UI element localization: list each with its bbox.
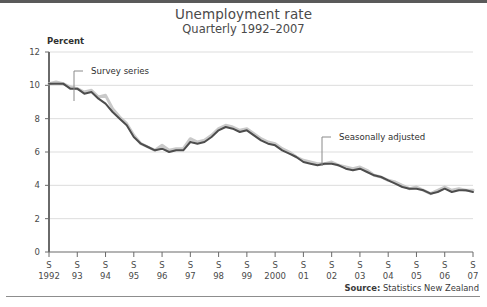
y-tick-label: 0: [35, 247, 40, 257]
x-tick-year: 95: [128, 271, 139, 281]
y-tick-label: 2: [35, 214, 40, 224]
chart-figure: Unemployment rate Quarterly 1992–2007 Pe…: [0, 0, 487, 307]
x-tick-year: 93: [72, 271, 83, 281]
x-tick-year: 03: [355, 271, 366, 281]
x-tick-quarter: S: [301, 260, 306, 270]
x-tick-quarter: S: [385, 260, 390, 270]
y-tick-label: 8: [35, 114, 40, 124]
x-tick-quarter: S: [414, 260, 419, 270]
x-tick-year: 98: [213, 271, 224, 281]
source-value: Statistics New Zealand: [383, 283, 479, 293]
x-tick-year: 04: [383, 271, 394, 281]
x-axis-ticks: S1992S93S94S95S96S97S98S99S2000S01S02S03…: [38, 252, 478, 281]
y-tick-label: 12: [29, 47, 40, 57]
x-tick-quarter: S: [159, 260, 164, 270]
x-tick-quarter: S: [188, 260, 193, 270]
x-tick-year: 2000: [264, 271, 286, 281]
annotation-leader-line: [74, 71, 83, 101]
x-tick-quarter: S: [216, 260, 221, 270]
y-axis-ticks: 024681012: [29, 47, 49, 257]
y-tick-label: 4: [35, 180, 40, 190]
x-tick-quarter: S: [442, 260, 447, 270]
annotation-label: Survey series: [91, 66, 150, 76]
y-tick-label: 10: [29, 80, 40, 90]
x-tick-quarter: S: [272, 260, 277, 270]
bottom-divider: [6, 296, 480, 297]
x-tick-year: 99: [241, 271, 252, 281]
x-tick-year: 07: [468, 271, 479, 281]
x-tick-year: 97: [185, 271, 196, 281]
y-tick-label: 6: [35, 147, 40, 157]
source-note: Source: Statistics New Zealand: [344, 283, 479, 293]
x-tick-year: 1992: [38, 271, 60, 281]
x-tick-quarter: S: [75, 260, 80, 270]
x-tick-quarter: S: [131, 260, 136, 270]
x-tick-quarter: S: [329, 260, 334, 270]
x-tick-quarter: S: [470, 260, 475, 270]
source-label: Source:: [344, 283, 380, 293]
annotation-labels: Survey seriesSeasonally adjusted: [91, 66, 425, 142]
x-tick-year: 05: [411, 271, 422, 281]
x-tick-year: 94: [100, 271, 111, 281]
x-tick-quarter: S: [46, 260, 51, 270]
x-tick-year: 02: [326, 271, 337, 281]
x-tick-year: 06: [439, 271, 450, 281]
x-tick-quarter: S: [103, 260, 108, 270]
x-tick-quarter: S: [244, 260, 249, 270]
gridlines: [49, 52, 473, 252]
x-tick-year: 96: [157, 271, 168, 281]
chart-plot-area: 024681012 S1992S93S94S95S96S97S98S99S200…: [0, 0, 487, 307]
x-tick-year: 01: [298, 271, 309, 281]
annotation-label: Seasonally adjusted: [339, 132, 425, 142]
x-tick-quarter: S: [357, 260, 362, 270]
